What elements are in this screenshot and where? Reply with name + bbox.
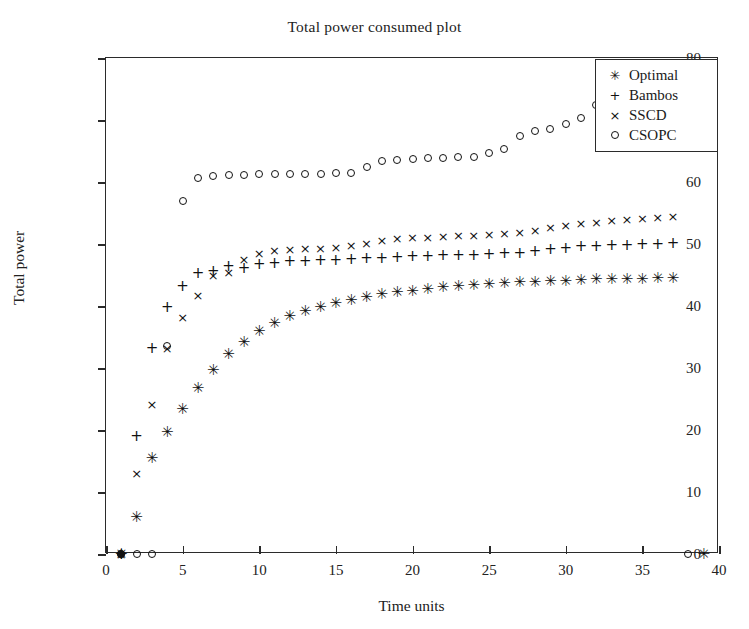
data-point-csopc xyxy=(500,145,508,153)
data-point-csopc xyxy=(454,153,462,161)
data-point-csopc xyxy=(332,169,340,177)
data-point-bambos: + xyxy=(605,238,618,253)
data-point-bambos: + xyxy=(345,251,358,266)
data-point-optimal: ✳ xyxy=(376,287,389,302)
data-point-optimal: ✳ xyxy=(130,510,143,525)
data-point-sscd: × xyxy=(422,230,433,243)
x-tick-label: 10 xyxy=(252,562,267,579)
data-point-csopc xyxy=(684,550,692,558)
data-point-sscd: × xyxy=(560,218,571,231)
data-point-bambos: + xyxy=(360,251,373,266)
legend-label: Optimal xyxy=(625,67,678,84)
data-point-bambos: + xyxy=(146,340,159,355)
data-point-optimal: ✳ xyxy=(238,334,251,349)
legend-marker-sscd-icon: × xyxy=(605,108,625,123)
x-tick-label: 35 xyxy=(635,562,650,579)
data-point-bambos: + xyxy=(621,237,634,252)
data-point-bambos: + xyxy=(559,240,572,255)
data-point-csopc xyxy=(516,132,524,140)
data-point-sscd: × xyxy=(147,397,158,410)
data-point-csopc xyxy=(286,170,294,178)
chart-title: Total power consumed plot xyxy=(0,18,749,36)
data-point-sscd: × xyxy=(622,213,633,226)
data-point-csopc xyxy=(194,174,202,182)
data-point-optimal: ✳ xyxy=(314,299,327,314)
data-point-csopc xyxy=(363,163,371,171)
data-point-optimal: ✳ xyxy=(360,289,373,304)
data-point-csopc xyxy=(209,172,217,180)
x-tick-mark xyxy=(719,546,721,554)
data-point-sscd: × xyxy=(254,247,265,260)
y-tick-mark xyxy=(98,182,106,184)
data-point-sscd: × xyxy=(284,242,295,255)
data-point-optimal: ✳ xyxy=(498,276,511,291)
data-point-csopc xyxy=(409,155,417,163)
data-point-csopc xyxy=(546,125,554,133)
data-point-bambos: + xyxy=(667,236,680,251)
data-point-sscd: × xyxy=(392,232,403,245)
data-point-bambos: + xyxy=(176,279,189,294)
data-point-csopc xyxy=(271,170,279,178)
data-point-csopc xyxy=(317,170,325,178)
data-point-sscd: × xyxy=(376,234,387,247)
data-point-csopc xyxy=(562,120,570,128)
data-point-bambos: + xyxy=(391,250,404,265)
data-point-sscd: × xyxy=(591,215,602,228)
data-point-csopc xyxy=(163,342,171,350)
data-point-sscd: × xyxy=(238,252,249,265)
data-point-sscd: × xyxy=(499,227,510,240)
data-point-sscd: × xyxy=(606,214,617,227)
data-point-csopc xyxy=(577,114,585,122)
data-point-optimal: ✳ xyxy=(391,285,404,300)
y-tick-mark xyxy=(98,244,106,246)
data-point-optimal: ✳ xyxy=(605,272,618,287)
data-point-sscd: × xyxy=(192,288,203,301)
data-point-csopc xyxy=(179,197,187,205)
data-point-bambos: + xyxy=(468,247,481,262)
data-point-sscd: × xyxy=(453,229,464,242)
data-point-optimal: ✳ xyxy=(590,272,603,287)
x-tick-label: 20 xyxy=(405,562,420,579)
data-point-sscd: × xyxy=(468,228,479,241)
plot-area: 010203040506070800510152025303540 ✳✳✳✳✳✳… xyxy=(105,57,718,553)
data-point-bambos: + xyxy=(452,248,465,263)
data-point-sscd: × xyxy=(407,231,418,244)
data-point-bambos: + xyxy=(161,300,174,315)
data-point-sscd: × xyxy=(300,242,311,255)
data-point-sscd: × xyxy=(131,467,142,480)
legend-item-csopc: CSOPC xyxy=(605,125,708,145)
data-point-sscd: × xyxy=(576,216,587,229)
y-tick-mark xyxy=(98,58,106,60)
legend-label: Bambos xyxy=(625,87,678,104)
data-point-optimal: ✳ xyxy=(192,380,205,395)
data-point-bambos: + xyxy=(192,266,205,281)
data-point-bambos: + xyxy=(529,244,542,259)
data-point-optimal: ✳ xyxy=(146,450,159,465)
data-point-optimal: ✳ xyxy=(299,303,312,318)
legend-marker-bambos-icon: + xyxy=(605,88,625,103)
legend-marker-optimal-icon: ✳ xyxy=(605,68,625,83)
legend-label: SSCD xyxy=(625,107,667,124)
data-point-bambos: + xyxy=(544,241,557,256)
data-point-sscd: × xyxy=(177,310,188,323)
data-point-csopc xyxy=(393,156,401,164)
data-point-sscd: × xyxy=(484,228,495,241)
x-tick-label: 40 xyxy=(712,562,727,579)
x-tick-label: 25 xyxy=(482,562,497,579)
x-tick-label: 0 xyxy=(102,562,110,579)
data-point-optimal: ✳ xyxy=(330,295,343,310)
data-point-sscd: × xyxy=(330,241,341,254)
data-point-csopc xyxy=(347,169,355,177)
data-point-optimal: ✳ xyxy=(422,281,435,296)
data-point-csopc xyxy=(424,154,432,162)
data-point-optimal: ✳ xyxy=(176,401,189,416)
data-point-optimal: ✳ xyxy=(452,279,465,294)
legend-label: CSOPC xyxy=(625,127,677,144)
data-point-optimal: ✳ xyxy=(468,277,481,292)
x-tick-label: 30 xyxy=(558,562,573,579)
data-point-sscd: × xyxy=(315,241,326,254)
data-point-bambos: + xyxy=(376,250,389,265)
y-tick-mark xyxy=(98,430,106,432)
data-point-csopc xyxy=(470,153,478,161)
data-point-optimal: ✳ xyxy=(437,280,450,295)
